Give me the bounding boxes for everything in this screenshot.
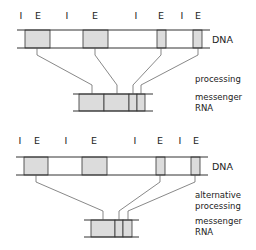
intron-label: I — [66, 10, 69, 21]
mrna-label: RNA — [195, 103, 213, 113]
exon-label: E — [34, 135, 40, 146]
exon-dna — [157, 30, 166, 48]
mrna-label: messenger — [195, 92, 243, 102]
splice-link — [141, 48, 198, 94]
splice-link — [37, 48, 92, 94]
exon-dna — [191, 157, 200, 175]
intron-label: I — [135, 10, 138, 21]
exon-mrna — [79, 94, 104, 111]
exon-dna — [25, 30, 50, 48]
exon-dna — [193, 30, 202, 48]
exon-label: E — [195, 10, 201, 21]
alternative-splicing-diagram: IEIEIEIEDNAprocessingmessengerRNAIEIEIEI… — [0, 0, 256, 250]
exon-label: E — [91, 135, 97, 146]
intron-label: I — [181, 10, 184, 21]
exon-mrna — [115, 220, 123, 237]
exon-label: E — [193, 135, 199, 146]
intron-label: I — [20, 10, 23, 21]
exon-mrna — [123, 220, 132, 237]
intron-label: I — [19, 135, 22, 146]
mrna-label: messenger — [195, 216, 243, 226]
processing-label: alternative — [195, 190, 241, 200]
intron-label: I — [134, 135, 137, 146]
exon-dna — [156, 157, 165, 175]
exon-mrna — [104, 94, 129, 111]
exon-dna — [82, 157, 107, 175]
splice-link — [95, 48, 117, 94]
exon-mrna — [91, 220, 115, 237]
exon-label: E — [157, 135, 163, 146]
processing-label: processing — [195, 201, 241, 211]
exon-mrna — [137, 94, 145, 111]
exon-label: E — [35, 10, 41, 21]
dna-label: DNA — [212, 34, 233, 45]
exon-dna — [24, 157, 48, 175]
exon-mrna — [129, 94, 137, 111]
mrna-label: RNA — [195, 227, 213, 237]
dna-label: DNA — [212, 161, 233, 172]
splice-link — [36, 175, 103, 220]
intron-label: I — [65, 135, 68, 146]
exon-label: E — [158, 10, 164, 21]
exon-dna — [83, 30, 108, 48]
intron-label: I — [179, 135, 182, 146]
splice-link — [133, 48, 161, 94]
splice-link — [119, 175, 160, 220]
exon-label: E — [92, 10, 98, 21]
processing-label: processing — [195, 74, 241, 84]
